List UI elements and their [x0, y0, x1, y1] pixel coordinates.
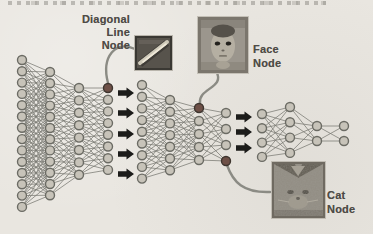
- network-node: [18, 146, 27, 155]
- network-node: [46, 101, 55, 110]
- network-node: [104, 119, 113, 128]
- network-node: [46, 191, 55, 200]
- network-node: [166, 166, 175, 175]
- network-node: [166, 131, 175, 140]
- network-node: [46, 157, 55, 166]
- flow-arrow-icon: [118, 169, 134, 180]
- network-node: [18, 67, 27, 76]
- network-node: [75, 170, 84, 179]
- network-node: [46, 124, 55, 133]
- network-node: [138, 92, 147, 101]
- network-node: [18, 191, 27, 200]
- network-node: [104, 107, 113, 116]
- network-node: [75, 133, 84, 142]
- network-node: [46, 112, 55, 121]
- network-node: [46, 168, 55, 177]
- diagonal-line-node-label: Diagonal Line Node: [52, 13, 130, 52]
- label-line: Node: [327, 202, 355, 216]
- network-node: [138, 151, 147, 160]
- network-node: [138, 174, 147, 183]
- network-node: [138, 139, 147, 148]
- network-node: [286, 133, 295, 142]
- highlighted-feature-node: [104, 84, 113, 93]
- network-node: [340, 137, 349, 146]
- network-node: [258, 110, 267, 119]
- flow-arrow-icon: [118, 149, 134, 160]
- flow-arrow-icon: [118, 129, 134, 140]
- network-node: [222, 141, 231, 150]
- network-node: [18, 180, 27, 189]
- network-node: [195, 130, 204, 139]
- network-node: [18, 78, 27, 87]
- network-node: [18, 135, 27, 144]
- network-node: [18, 89, 27, 98]
- network-node: [138, 81, 147, 90]
- network-node: [258, 152, 267, 161]
- network-node: [75, 146, 84, 155]
- network-node: [46, 68, 55, 77]
- network-node: [286, 118, 295, 127]
- network-node: [166, 96, 175, 105]
- network-node: [46, 79, 55, 88]
- network-node: [18, 101, 27, 110]
- flow-arrow-icon: [118, 88, 134, 99]
- network-node: [75, 96, 84, 105]
- label-line: Node: [253, 56, 281, 70]
- network-node: [286, 148, 295, 157]
- network-node: [104, 165, 113, 174]
- cat-node-label: Cat Node: [327, 188, 355, 216]
- network-node: [104, 130, 113, 139]
- network-node: [166, 119, 175, 128]
- network-node: [75, 121, 84, 130]
- network-node: [104, 142, 113, 151]
- label-line: Cat: [327, 188, 355, 202]
- label-line: Line: [52, 26, 130, 39]
- network-node: [138, 104, 147, 113]
- flow-arrow-icon: [236, 112, 252, 123]
- network-node: [340, 122, 349, 131]
- network-node: [313, 122, 322, 131]
- network-node: [104, 154, 113, 163]
- cat-patch-connector: [227, 165, 270, 192]
- network-node: [166, 107, 175, 116]
- network-node: [75, 158, 84, 167]
- network-node: [313, 137, 322, 146]
- network-node: [258, 124, 267, 133]
- network-node: [18, 112, 27, 121]
- label-line: Face: [253, 42, 281, 56]
- face-photo-patch-icon: [198, 17, 248, 73]
- network-node: [195, 117, 204, 126]
- network-node: [18, 123, 27, 132]
- network-node: [286, 103, 295, 112]
- network-node: [222, 109, 231, 118]
- network-node: [195, 143, 204, 152]
- network-node: [195, 156, 204, 165]
- network-node: [46, 180, 55, 189]
- label-line: Diagonal: [52, 13, 130, 26]
- face-node-label: Face Node: [253, 42, 281, 70]
- flow-arrow-icon: [236, 143, 252, 154]
- network-node: [46, 146, 55, 155]
- network-node: [104, 95, 113, 104]
- network-node: [138, 116, 147, 125]
- cat-photo-patch-icon: [272, 162, 325, 218]
- scanned-diagram-page: Diagonal Line Node Face Node Cat Node: [0, 0, 373, 234]
- network-node: [46, 90, 55, 99]
- label-line: Node: [52, 39, 130, 52]
- network-node: [138, 127, 147, 136]
- network-node: [222, 125, 231, 134]
- highlighted-feature-node: [222, 157, 231, 166]
- flow-arrow-icon: [118, 108, 134, 119]
- network-node: [138, 162, 147, 171]
- network-node: [46, 135, 55, 144]
- flow-arrow-icon: [236, 127, 252, 138]
- network-node: [18, 157, 27, 166]
- network-node: [18, 56, 27, 65]
- diagonal-line-patch-icon: [135, 36, 172, 70]
- highlighted-feature-node: [195, 104, 204, 113]
- network-node: [258, 138, 267, 147]
- face-patch-connector: [200, 71, 218, 103]
- network-node: [166, 142, 175, 151]
- network-node: [166, 154, 175, 163]
- network-node: [75, 84, 84, 93]
